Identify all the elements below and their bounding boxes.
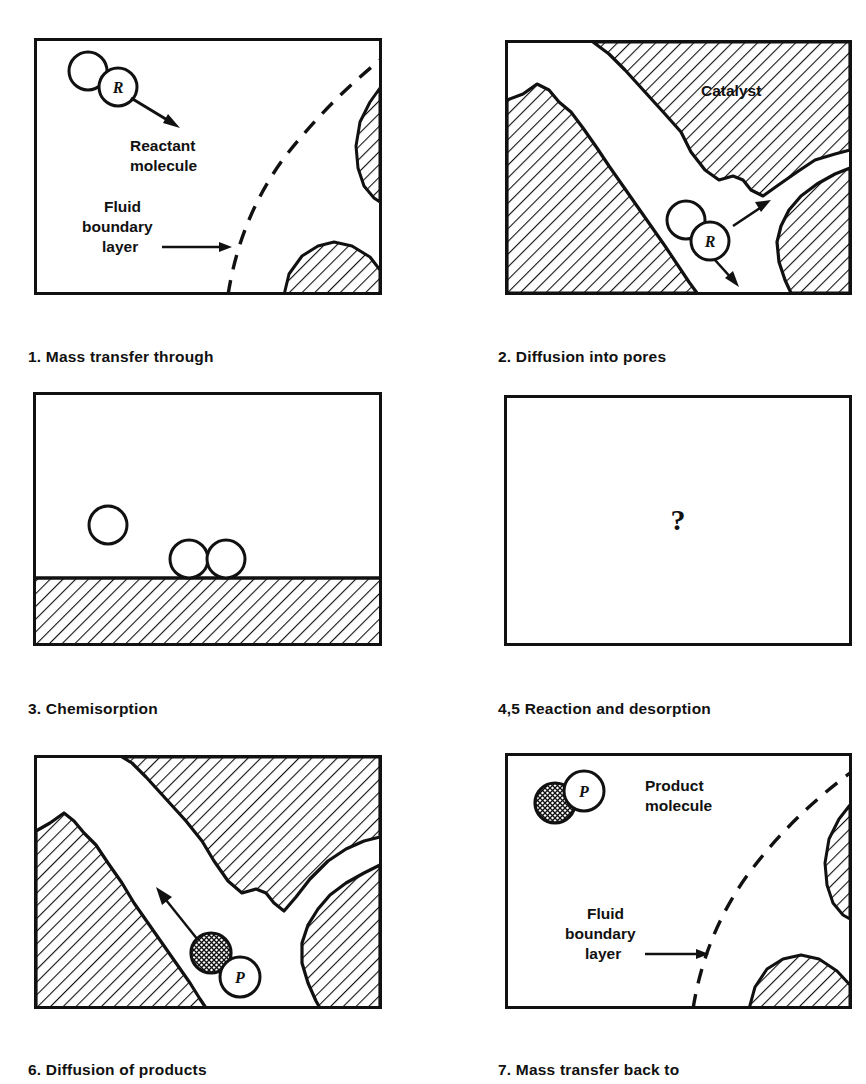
reactant-label-line1: Reactant [130, 137, 195, 154]
product-label-line1: Product [645, 777, 704, 794]
panel-6-caption-line-1: 6. Diffusion of products [28, 1059, 358, 1080]
panel-1-mass-transfer: R Reactant molecule Fluid boundary layer [34, 38, 382, 295]
panel-2-caption-line-1: 2. Diffusion into pores [498, 346, 828, 367]
panel-3-caption-line-1: 3. Chemisorption [28, 698, 358, 719]
adsorbed-molecule-circle-left [170, 540, 208, 578]
catalysis-steps-figure: R Reactant molecule Fluid boundary layer… [0, 0, 866, 1084]
molecule-symbol-r: R [112, 79, 124, 96]
fluid-label-line1: Fluid [104, 198, 141, 215]
molecule-symbol-p: P [234, 969, 245, 986]
panel-2-drawing: Catalyst R [505, 40, 852, 295]
panel-7-caption: 7. Mass transfer back to bulk fluid [498, 1016, 828, 1084]
panel-3-caption: 3. Chemisorption [28, 655, 358, 762]
reactant-label-line2: molecule [130, 157, 198, 174]
fluid-label-line2: boundary [565, 925, 636, 942]
panel-2-caption: 2. Diffusion into pores [498, 303, 828, 410]
panel-6-drawing: P [34, 755, 382, 1009]
fluid-label-line3: layer [102, 238, 138, 255]
panel-1-drawing: R Reactant molecule Fluid boundary layer [34, 38, 382, 295]
question-mark: ? [671, 503, 686, 536]
fluid-label-line1: Fluid [587, 905, 624, 922]
panel-6-caption: 6. Diffusion of products out of pores [28, 1016, 358, 1084]
panel-6-diffusion-out-of-pores: P [34, 755, 382, 1009]
catalyst-surface-slab [33, 578, 382, 646]
panel-7-drawing: P Product molecule Fluid boundary layer [505, 753, 852, 1009]
molecule-symbol-r: R [704, 233, 716, 250]
product-label-line2: molecule [645, 797, 713, 814]
catalyst-label: Catalyst [701, 82, 761, 99]
molecule-symbol-p: P [578, 783, 589, 800]
panel-45-reaction-desorption: ? [504, 395, 852, 646]
fluid-label-line3: layer [585, 945, 621, 962]
panel-1-caption-line-1: 1. Mass transfer through [28, 346, 358, 367]
panel-7-caption-line-1: 7. Mass transfer back to [498, 1059, 828, 1080]
fluid-label-line2: boundary [82, 218, 153, 235]
panel-7-mass-transfer-back: P Product molecule Fluid boundary layer [505, 753, 852, 1009]
free-molecule-circle [89, 506, 127, 544]
panel-45-caption-line-1: 4,5 Reaction and desorption [498, 698, 838, 719]
panel-3-drawing [33, 392, 382, 646]
panel-3-chemisorption [33, 392, 382, 646]
adsorbed-molecule-circle-right [207, 540, 245, 578]
panel-2-diffusion-into-pores: Catalyst R [505, 40, 852, 295]
panel-45-drawing: ? [504, 395, 852, 646]
